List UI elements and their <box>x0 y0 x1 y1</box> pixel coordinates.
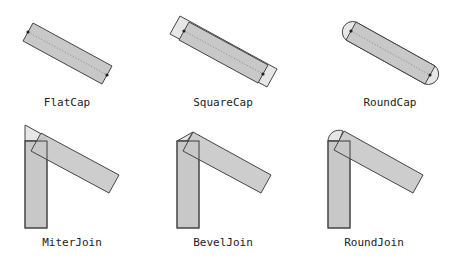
end-point-icon <box>261 72 264 75</box>
roundjoin-illustration <box>328 130 423 228</box>
pen-styles-diagram: FlatCap SquareCap RoundCap MiterJoin <box>0 0 457 261</box>
roundjoin-label: RoundJoin <box>344 236 404 249</box>
miterjoin-label: MiterJoin <box>42 236 102 249</box>
miterjoin-illustration <box>25 125 119 228</box>
start-point-icon <box>182 29 185 32</box>
end-point-icon <box>428 73 431 76</box>
end-point-icon <box>105 73 108 76</box>
beveljoin-label: BevelJoin <box>193 236 253 249</box>
beveljoin-illustration <box>177 132 271 228</box>
roundcap-illustration <box>342 22 438 85</box>
flatcap-illustration <box>23 23 112 84</box>
start-point-icon <box>26 30 29 33</box>
roundcap-label: RoundCap <box>364 96 417 109</box>
squarecap-illustration <box>170 16 277 87</box>
flatcap-label: FlatCap <box>44 96 90 109</box>
start-point-icon <box>349 29 352 32</box>
squarecap-label: SquareCap <box>193 96 253 109</box>
